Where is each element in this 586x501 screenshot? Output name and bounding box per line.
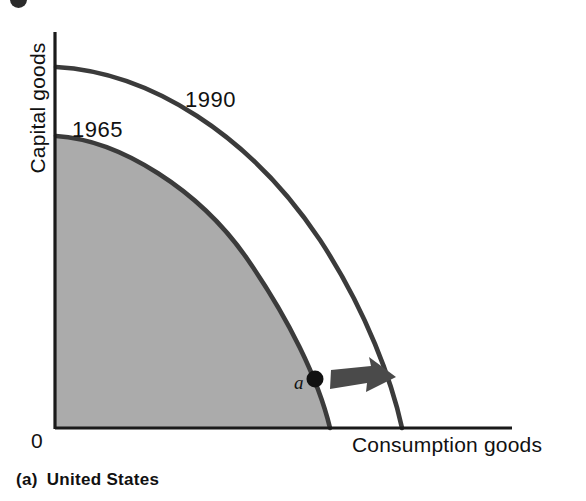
y-axis-label: Capital goods [26, 33, 50, 183]
rightward-shift-arrow [330, 357, 396, 392]
curve-label-1965: 1965 [72, 117, 123, 143]
panel-title: United States [47, 470, 160, 489]
point-a-marker [307, 371, 324, 388]
panel-caption: (a)United States [16, 470, 159, 490]
point-a-label: a [294, 372, 304, 394]
origin-label: 0 [31, 429, 43, 453]
ppf-chart-canvas [0, 0, 586, 501]
shaded-attainable-region-1965 [56, 136, 330, 428]
x-axis-label: Consumption goods [352, 433, 542, 457]
panel-tag: (a) [16, 470, 38, 489]
ppf-figure: Capital goods Consumption goods 0 1990 1… [0, 0, 586, 501]
curve-label-1990: 1990 [185, 87, 236, 113]
